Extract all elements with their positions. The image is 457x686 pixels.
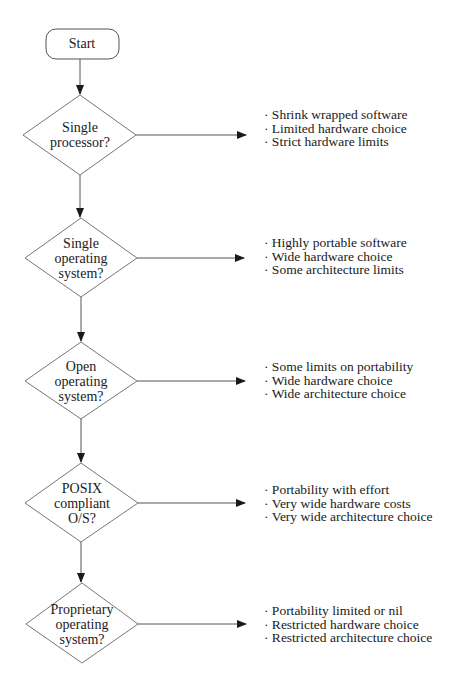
start-label: Start: [69, 36, 95, 52]
outcome-3-item-2: · Wide hardware choice: [264, 374, 413, 388]
outcome-4-item-2: · Very wide hardware costs: [264, 497, 432, 511]
outcome-2-item-2: · Wide hardware choice: [264, 250, 407, 264]
decision-3-label: Open operating system?: [55, 359, 108, 404]
decision-5-label: Proprietary operating system?: [51, 602, 114, 647]
decision-2-label: Single operating system?: [55, 236, 108, 281]
outcome-list-5: · Portability limited or nil · Restricte…: [264, 604, 432, 645]
outcome-4-item-3: · Very wide architecture choice: [264, 510, 432, 524]
outcome-3-item-1: · Some limits on portability: [264, 360, 413, 374]
decision-3-line-3: system?: [55, 389, 108, 404]
outcome-3-item-3: · Wide architecture choice: [264, 387, 413, 401]
decision-4-line-3: O/S?: [54, 511, 110, 526]
decision-1-line-2: processor?: [50, 135, 110, 150]
outcome-1-item-1: · Shrink wrapped software: [264, 108, 408, 122]
outcome-list-4: · Portability with effort · Very wide ha…: [264, 483, 432, 524]
outcome-list-2: · Highly portable software · Wide hardwa…: [264, 236, 407, 277]
decision-5-line-1: Proprietary: [51, 602, 114, 617]
start-text: Start: [69, 36, 95, 52]
outcome-4-item-1: · Portability with effort: [264, 483, 432, 497]
outcome-2-item-1: · Highly portable software: [264, 236, 407, 250]
outcome-1-item-3: · Strict hardware limits: [264, 135, 408, 149]
decision-4-label: POSIX compliant O/S?: [54, 481, 110, 526]
decision-5-line-2: operating: [51, 617, 114, 632]
outcome-list-3: · Some limits on portability · Wide hard…: [264, 360, 413, 401]
outcome-list-1: · Shrink wrapped software · Limited hard…: [264, 108, 408, 149]
decision-1-label: Single processor?: [50, 120, 110, 150]
outcome-5-item-2: · Restricted hardware choice: [264, 618, 432, 632]
decision-4-line-1: POSIX: [54, 481, 110, 496]
decision-2-line-2: operating: [55, 251, 108, 266]
decision-3-line-2: operating: [55, 374, 108, 389]
decision-2-line-1: Single: [55, 236, 108, 251]
outcome-2-item-3: · Some architecture limits: [264, 263, 407, 277]
decision-3-line-1: Open: [55, 359, 108, 374]
outcome-5-item-3: · Restricted architecture choice: [264, 631, 432, 645]
decision-5-line-3: system?: [51, 632, 114, 647]
outcome-5-item-1: · Portability limited or nil: [264, 604, 432, 618]
decision-1-line-1: Single: [50, 120, 110, 135]
decision-2-line-3: system?: [55, 266, 108, 281]
outcome-1-item-2: · Limited hardware choice: [264, 122, 408, 136]
decision-4-line-2: compliant: [54, 496, 110, 511]
flowchart-canvas: [0, 0, 457, 686]
